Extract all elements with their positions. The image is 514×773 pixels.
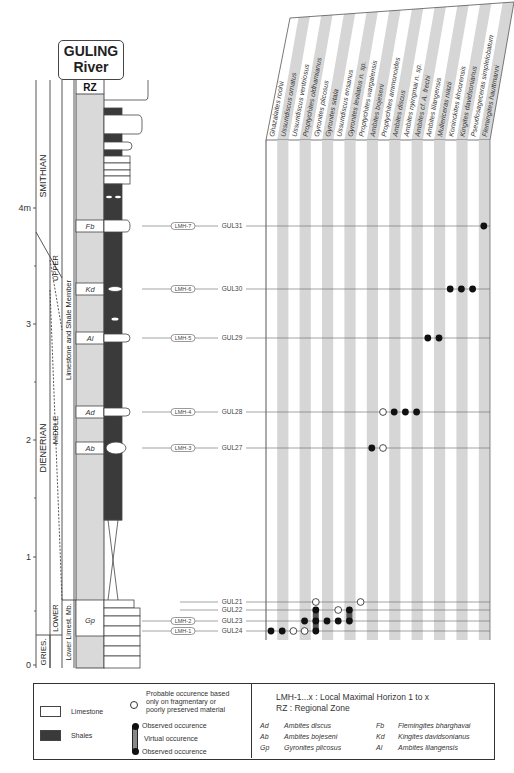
legend: Limestone Shales Probable occurence base… — [33, 683, 495, 760]
sample-label: GUL31 — [222, 222, 243, 229]
abbr-code: Ab — [260, 731, 269, 742]
observed-dot — [312, 628, 319, 635]
observed-dot — [402, 409, 409, 416]
member-limestone-shale: Limestone and Shale Member — [64, 279, 73, 380]
open-circle-icon — [130, 701, 138, 709]
abbr-code: Al — [376, 742, 382, 753]
scale-tick-label: 3 — [26, 319, 31, 329]
abbr-name: Flemingites bharghavai — [398, 720, 470, 731]
probable-line3: poorly preserved material — [146, 706, 252, 714]
legend-probable: Probable occurence based only on fragmen… — [132, 690, 252, 714]
sample-label: GUL28 — [222, 408, 243, 415]
observed-dot — [312, 607, 319, 614]
observed-dot — [368, 445, 375, 452]
rz-definition: RZ : Regional Zone — [276, 703, 429, 714]
lmh-label: LMH-5 — [175, 335, 192, 341]
probable-line2: only on fragmentary or — [146, 698, 252, 706]
legend-divider — [251, 684, 252, 758]
sample-label: GUL27 — [222, 444, 243, 451]
observed-dot — [324, 618, 331, 625]
virtual-label: Virtual occurence — [144, 735, 198, 742]
sample-label: GUL30 — [222, 285, 243, 292]
member-lower-limestone: Lower Limest. Mb. — [65, 603, 72, 660]
lmh-label: LMH-1 — [175, 628, 192, 634]
stage-griesbachian: GRIES. — [39, 638, 48, 665]
lmh-label: LMH-7 — [175, 223, 192, 229]
stage-dienerian: DIENERIAN — [38, 423, 48, 472]
abbr-code: Fb — [376, 720, 384, 731]
abbr-name: Kingites davidsonianus — [398, 731, 470, 742]
abbr-name: Ambites bojeseni — [284, 731, 337, 742]
scale-tick-label: 4m — [18, 203, 31, 213]
observed-dot — [312, 618, 319, 625]
probable-dot — [357, 599, 364, 606]
probable-line1: Probable occurence based — [146, 690, 252, 698]
scale-tick-label: 2 — [26, 435, 31, 445]
legend-definitions: LMH-1...x : Local Maximal Horizon 1 to x… — [276, 692, 429, 714]
probable-dot — [301, 628, 308, 635]
observed-dot — [391, 409, 398, 416]
abbr-name: Ambites lilangensis — [398, 742, 458, 753]
sample-label: GUL23 — [222, 617, 243, 624]
observed-dot — [279, 628, 286, 635]
probable-dot — [312, 599, 319, 606]
limestone-label: Limestone — [71, 708, 103, 715]
abbr-name: Gyronites plicosus — [284, 742, 341, 753]
observed-dot — [424, 335, 431, 342]
scale-tick-label: 0 — [26, 660, 31, 670]
rz-header: RZ — [83, 82, 96, 93]
substage-lower: LOWER — [51, 604, 60, 632]
abbr-code: Kd — [376, 731, 385, 742]
observed-dot — [346, 618, 353, 625]
sample-label: GUL24 — [222, 627, 243, 634]
shales-label: Shales — [71, 732, 92, 739]
substage-upper: UPPER — [51, 254, 60, 280]
observed-dot — [480, 223, 487, 230]
observed-dot — [469, 286, 476, 293]
observed-dot — [268, 628, 275, 635]
observed-dot — [458, 286, 465, 293]
observed-dot — [436, 335, 443, 342]
sample-label: GUL21 — [222, 598, 243, 605]
observed-bottom-label: Observed occurence — [142, 748, 207, 755]
zone-code: Kd — [85, 285, 95, 294]
observed-dot — [447, 286, 454, 293]
abbr-code: Gp — [260, 742, 269, 753]
abbr-code: Ad — [260, 720, 269, 731]
sample-label: GUL22 — [222, 606, 243, 613]
stage-smithian: SMITHIAN — [38, 154, 48, 197]
scale-tick-label: 1 — [26, 552, 31, 562]
observed-dot — [335, 618, 342, 625]
lmh-definition: LMH-1...x : Local Maximal Horizon 1 to x — [276, 692, 429, 703]
lmh-label: LMH-4 — [175, 409, 192, 415]
observed-top-label: Observed occurence — [142, 722, 207, 729]
probable-dot — [380, 445, 387, 452]
substage-middle: MIDDLE — [51, 416, 60, 444]
species-header: Ghazalaites roohiiUssuridiscus ornatusUs… — [266, 2, 514, 140]
zone-code: Ab — [84, 444, 94, 453]
lmh-label: LMH-6 — [175, 286, 192, 292]
observed-dot — [346, 607, 353, 614]
zone-code: Ad — [84, 408, 95, 417]
zone-code: Al — [86, 334, 94, 343]
taxon-columns — [277, 140, 490, 640]
thickness-scale: 01234m — [18, 203, 36, 670]
legend-limestone: Limestone — [40, 706, 103, 717]
abbr-name: Ambites discus — [284, 720, 331, 731]
zone-code: Gp — [85, 616, 95, 625]
legend-range-bar: Observed occurence Virtual occurence Obs… — [132, 724, 262, 756]
limestone-swatch — [40, 706, 61, 717]
observed-dot — [301, 618, 308, 625]
probable-dot — [335, 607, 342, 614]
zone-code: Fb — [86, 222, 95, 231]
observed-dot — [413, 409, 420, 416]
legend-shales: Shales — [40, 730, 92, 741]
sample-label: GUL29 — [222, 334, 243, 341]
probable-dot — [290, 628, 297, 635]
probable-dot — [380, 409, 387, 416]
range-chart-figure: Ghazalaites roohiiUssuridiscus ornatusUs… — [0, 0, 514, 773]
lithology-column — [104, 80, 148, 668]
lmh-label: LMH-3 — [175, 445, 192, 451]
shales-swatch — [40, 730, 61, 741]
lmh-label: LMH-2 — [175, 618, 192, 624]
